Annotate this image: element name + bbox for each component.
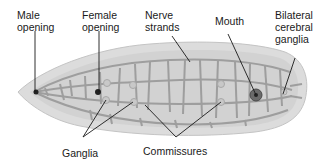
label-commissures: Commissures [143, 145, 207, 157]
label-ganglia: Ganglia [62, 147, 98, 159]
label-nerve-strands: Nerve strands [145, 9, 179, 33]
male-opening-marker [34, 90, 39, 95]
label-bilateral-cerebral-ganglia: Bilateral cerebral ganglia [275, 9, 313, 45]
label-female-opening: Female opening [82, 9, 119, 33]
female-opening-marker [95, 89, 101, 95]
label-mouth: Mouth [215, 15, 244, 27]
label-male-opening: Male opening [17, 9, 54, 33]
flatworm-diagram: Male opening Female opening Nerve strand… [0, 0, 325, 168]
